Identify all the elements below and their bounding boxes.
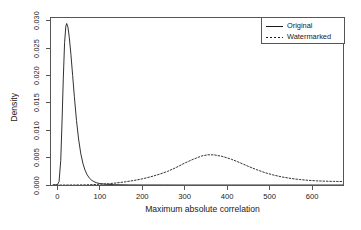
curve-original bbox=[53, 23, 343, 185]
x-tick-mark bbox=[184, 186, 185, 190]
x-axis-title-text: Maximum absolute correlation bbox=[101, 204, 260, 214]
x-tick-mark bbox=[269, 186, 270, 190]
legend-line-dashed-icon bbox=[266, 34, 283, 40]
legend-label-original: Original bbox=[287, 22, 312, 30]
legend-item-watermarked: Watermarked bbox=[266, 32, 340, 42]
legend-item-original: Original bbox=[266, 21, 340, 31]
density-chart-figure: Density 0.0000.0050.0100.0150.0200.0250.… bbox=[0, 0, 361, 230]
y-tick-label: 0.010 bbox=[33, 121, 40, 140]
x-tick-mark bbox=[99, 186, 100, 190]
x-tick-label: 300 bbox=[178, 193, 191, 201]
x-tick-label: 200 bbox=[136, 193, 149, 201]
legend-line-solid-icon bbox=[266, 23, 283, 29]
x-tick-label: 100 bbox=[93, 193, 106, 201]
x-tick-mark bbox=[142, 186, 143, 190]
x-tick-mark bbox=[57, 186, 58, 190]
y-tick-label: 0.020 bbox=[33, 66, 40, 85]
y-tick-label: 0.015 bbox=[33, 93, 40, 112]
x-axis-title: Maximum absolute correlation bbox=[0, 204, 361, 214]
x-tick-mark bbox=[312, 186, 313, 190]
chart-legend: Original Watermarked bbox=[261, 17, 345, 44]
x-tick-label: 600 bbox=[306, 193, 319, 201]
x-tick-label: 400 bbox=[221, 193, 234, 201]
x-tick-mark bbox=[227, 186, 228, 190]
legend-label-watermarked: Watermarked bbox=[287, 33, 331, 41]
curve-watermarked bbox=[53, 155, 343, 185]
y-tick-label: 0.025 bbox=[33, 39, 40, 58]
y-tick-label: 0.005 bbox=[33, 148, 40, 167]
y-tick-label: 0.030 bbox=[33, 11, 40, 30]
x-tick-label: 0 bbox=[55, 193, 59, 201]
x-tick-label: 500 bbox=[263, 193, 276, 201]
